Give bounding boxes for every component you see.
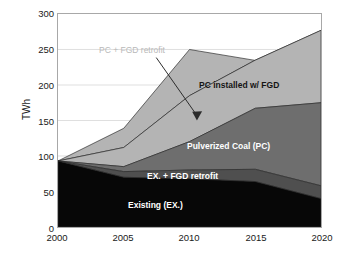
x-tick-2010: 2010 (167, 232, 211, 243)
y-tick-250: 250 (28, 45, 54, 54)
x-tick-2015: 2015 (234, 232, 278, 243)
y-tick-200: 200 (28, 81, 54, 90)
stacked-area-chart-figure: TWh 300 250 200 150 100 50 0 (0, 0, 348, 258)
y-tick-150: 150 (28, 117, 54, 126)
x-tick-2020: 2020 (300, 232, 344, 243)
y-tick-100: 100 (28, 152, 54, 161)
x-tick-2000: 2000 (35, 232, 79, 243)
y-axis-tick-labels: 300 250 200 150 100 50 0 (26, 0, 54, 258)
area-series-svg (58, 14, 321, 227)
x-axis-tick-labels: 2000 2005 2010 2015 2020 (0, 232, 348, 252)
plot-area: PC + FGD retrofit PC installed w/ FGD Pu… (57, 13, 322, 228)
y-tick-300: 300 (28, 9, 54, 18)
x-tick-2005: 2005 (101, 232, 145, 243)
y-tick-50: 50 (28, 188, 54, 197)
